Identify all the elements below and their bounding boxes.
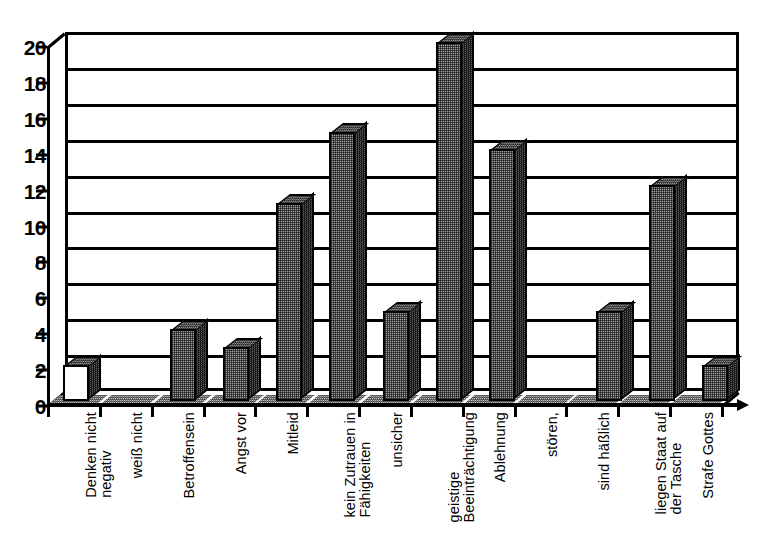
x-axis-label-line: unsicher xyxy=(390,412,405,468)
x-axis-label-line: stören, xyxy=(545,412,560,457)
x-axis-label-line: negativ xyxy=(99,412,114,498)
x-axis-label: Betroffensein xyxy=(182,412,197,498)
x-axis-label: unsicher xyxy=(390,412,405,468)
bar-front-face xyxy=(223,347,249,401)
y-axis-tick-mark xyxy=(36,189,47,192)
x-axis-label-line: liegen Staat auf xyxy=(654,412,669,514)
y-axis-tick-mark xyxy=(36,369,47,372)
x-axis xyxy=(47,403,747,409)
x-axis-label-line: der Tasche xyxy=(669,412,684,514)
bar-side-face xyxy=(673,174,687,400)
x-axis-label: weiß nicht xyxy=(130,412,145,478)
x-axis-label-line: Strafe Gottes xyxy=(701,412,716,499)
x-axis-label: Strafe Gottes xyxy=(701,412,716,499)
bar xyxy=(276,203,302,400)
x-axis-label-line: geistige xyxy=(447,412,462,522)
y-axis-tick-mark xyxy=(36,333,47,336)
bar-side-face xyxy=(300,192,314,400)
x-axis-label-line: Denken nicht xyxy=(84,412,99,498)
bar xyxy=(329,132,355,401)
x-axis-labels: Denken nichtnegativweiß nichtBetroffense… xyxy=(47,412,747,557)
bar xyxy=(170,329,196,401)
bar-side-face xyxy=(513,139,527,401)
y-axis-tick-mark xyxy=(36,297,47,300)
bar xyxy=(63,365,89,401)
bar-front-face xyxy=(170,329,196,401)
bar xyxy=(223,347,249,401)
x-axis-label: Angst vor xyxy=(234,412,249,474)
bar-side-face xyxy=(460,31,474,401)
x-axis-label: kein Zutrauen inFähigkeiten xyxy=(343,412,373,518)
x-axis-label: stören, xyxy=(545,412,560,457)
bar-front-face xyxy=(329,132,355,401)
bar-front-face xyxy=(702,365,728,401)
x-axis-arrow xyxy=(737,399,749,411)
bar-front-face xyxy=(489,149,515,400)
x-axis-label: geistigeBeeinträchtigung xyxy=(447,412,477,522)
bar-chart: 20181614121086420 Denken nichtnegativwei… xyxy=(0,0,782,557)
bar-side-face xyxy=(407,300,421,401)
bar xyxy=(436,42,462,401)
x-axis-label-line: weiß nicht xyxy=(130,412,145,478)
x-axis-label: Denken nichtnegativ xyxy=(84,412,114,498)
bar-front-face xyxy=(63,365,89,401)
x-axis-label-line: Fähigkeiten xyxy=(358,412,373,518)
y-axis-tick-mark xyxy=(36,117,47,120)
bar-front-face xyxy=(596,311,622,401)
x-axis-label: liegen Staat aufder Tasche xyxy=(654,412,684,514)
bars-layer xyxy=(47,32,739,406)
x-axis-label-line: Beeinträchtigung xyxy=(462,412,477,522)
bar xyxy=(596,311,622,401)
y-axis-tick-mark xyxy=(36,225,47,228)
bar-front-face xyxy=(649,185,675,400)
x-axis-label-line: Angst vor xyxy=(234,412,249,474)
x-axis-label-line: Mitleid xyxy=(286,412,301,455)
x-axis-label-line: Betroffensein xyxy=(182,412,197,498)
bar xyxy=(383,311,409,401)
bar-side-face xyxy=(620,300,634,401)
bar xyxy=(702,365,728,401)
x-axis-label: Mitleid xyxy=(286,412,301,455)
bar xyxy=(649,185,675,400)
y-axis-tick-mark xyxy=(36,261,47,264)
bar-side-face xyxy=(353,121,367,401)
bar-front-face xyxy=(276,203,302,400)
bar-front-face xyxy=(436,42,462,401)
x-axis-label: sind häßlich xyxy=(597,412,612,491)
y-axis-tick-mark xyxy=(36,81,47,84)
y-axis-tick-mark xyxy=(36,153,47,156)
bar xyxy=(489,149,515,400)
bar-front-face xyxy=(383,311,409,401)
x-axis-label-line: kein Zutrauen in xyxy=(343,412,358,518)
x-axis-label: Ablehnung xyxy=(493,412,508,482)
y-axis: 20181614121086420 xyxy=(0,0,46,557)
x-axis-label-line: sind häßlich xyxy=(597,412,612,491)
x-axis-label-line: Ablehnung xyxy=(493,412,508,482)
